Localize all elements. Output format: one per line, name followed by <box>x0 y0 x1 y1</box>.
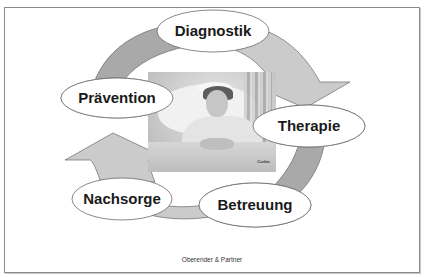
node-label-praevention: Prävention <box>67 89 167 106</box>
node-label-betreuung: Betreuung <box>205 196 305 213</box>
node-label-nachsorge: Nachsorge <box>72 190 172 207</box>
node-label-therapie: Therapie <box>259 117 359 134</box>
footer-credit: Oberender & Partner <box>0 256 424 263</box>
node-label-diagnostik: Diagnostik <box>163 22 263 39</box>
overlay-ellipses <box>0 0 424 277</box>
